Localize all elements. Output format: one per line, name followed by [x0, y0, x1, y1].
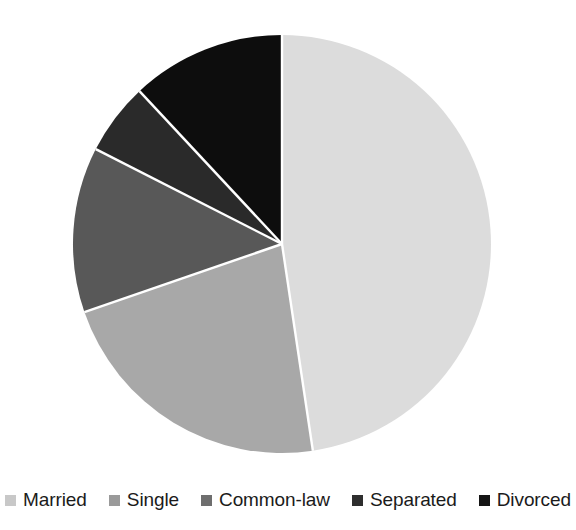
- legend-item-married[interactable]: Married: [5, 489, 87, 511]
- legend-label-married: Married: [23, 489, 87, 511]
- pie-chart-svg: [0, 0, 576, 470]
- chart-legend: MarriedSingleCommon-lawSeparatedDivorced: [0, 483, 576, 517]
- legend-item-separated[interactable]: Separated: [352, 489, 457, 511]
- pie-plot-area: [0, 0, 576, 470]
- legend-item-common-law[interactable]: Common-law: [201, 489, 330, 511]
- legend-item-divorced[interactable]: Divorced: [479, 489, 571, 511]
- legend-swatch-icon-single: [109, 495, 120, 506]
- legend-swatch-icon-separated: [352, 495, 363, 506]
- legend-label-common-law: Common-law: [219, 489, 330, 511]
- legend-label-divorced: Divorced: [497, 489, 571, 511]
- pie-slice-married[interactable]: [282, 35, 491, 451]
- legend-label-separated: Separated: [370, 489, 457, 511]
- legend-label-single: Single: [127, 489, 179, 511]
- legend-item-single[interactable]: Single: [109, 489, 179, 511]
- legend-swatch-icon-common-law: [201, 495, 212, 506]
- legend-swatch-icon-married: [5, 495, 16, 506]
- legend-swatch-icon-divorced: [479, 495, 490, 506]
- pie-chart-figure: MarriedSingleCommon-lawSeparatedDivorced: [0, 0, 576, 530]
